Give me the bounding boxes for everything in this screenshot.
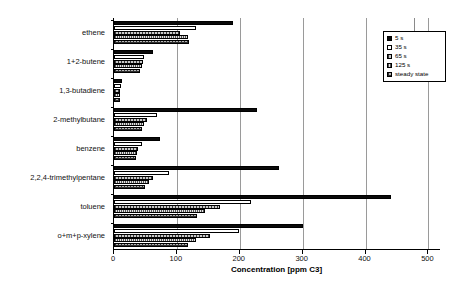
legend-leader-line bbox=[414, 18, 415, 31]
bar-chart: ethene1+2-butene1,3-butadiene2-methylbut… bbox=[0, 0, 474, 290]
bar bbox=[114, 137, 160, 141]
y-axis-tick bbox=[111, 49, 114, 50]
y-axis-label: toluene bbox=[80, 203, 105, 211]
bar bbox=[114, 26, 196, 30]
bar bbox=[114, 40, 189, 44]
y-axis-label: ethene bbox=[82, 29, 105, 37]
bar bbox=[114, 79, 122, 83]
bar bbox=[114, 98, 120, 102]
bar bbox=[114, 200, 251, 204]
bar bbox=[114, 234, 210, 238]
bar bbox=[114, 229, 239, 233]
legend-swatch bbox=[387, 63, 392, 68]
bar bbox=[114, 55, 144, 59]
bar-group bbox=[114, 163, 440, 192]
legend-item: 65 s bbox=[387, 52, 443, 60]
legend-swatch bbox=[387, 45, 392, 50]
bar bbox=[114, 84, 121, 88]
y-axis-tick bbox=[111, 223, 114, 224]
bar bbox=[114, 209, 205, 213]
bar bbox=[114, 171, 169, 175]
bar bbox=[114, 142, 142, 146]
x-axis-title: Concentration [ppm C3] bbox=[113, 266, 440, 274]
legend-swatch bbox=[387, 54, 392, 59]
legend: 5 s35 s65 s125 ssteady state bbox=[383, 31, 446, 82]
bar bbox=[114, 205, 220, 209]
legend-swatch bbox=[387, 72, 392, 77]
y-axis-tick bbox=[111, 194, 114, 195]
bar-group bbox=[114, 192, 440, 221]
bar bbox=[114, 166, 279, 170]
bar bbox=[114, 238, 196, 242]
x-axis-tick-label: 200 bbox=[219, 255, 259, 263]
y-axis-tick bbox=[111, 136, 114, 137]
bar bbox=[114, 35, 188, 39]
bar bbox=[114, 224, 303, 228]
bar bbox=[114, 151, 137, 155]
bar bbox=[114, 64, 142, 68]
bar bbox=[114, 243, 188, 247]
bar bbox=[114, 156, 136, 160]
bar bbox=[114, 127, 142, 131]
bar bbox=[114, 147, 138, 151]
bar bbox=[114, 93, 120, 97]
y-axis-tick bbox=[111, 78, 114, 79]
x-axis-tick-label: 500 bbox=[407, 255, 447, 263]
bar bbox=[114, 118, 147, 122]
legend-swatch bbox=[387, 36, 392, 41]
y-axis-tick bbox=[111, 20, 114, 21]
y-axis-label: 2,2,4-trimethylpentane bbox=[30, 174, 105, 182]
x-axis-tick-label: 100 bbox=[156, 255, 196, 263]
y-axis-label: 1,3-butadiene bbox=[59, 87, 105, 95]
bar bbox=[114, 113, 157, 117]
bar bbox=[114, 176, 153, 180]
y-axis-label: 2-methylbutane bbox=[53, 116, 105, 124]
legend-label: 5 s bbox=[395, 35, 403, 41]
legend-item: 35 s bbox=[387, 43, 443, 51]
x-axis-tick-label: 300 bbox=[282, 255, 322, 263]
bar bbox=[114, 122, 144, 126]
bar bbox=[114, 214, 197, 218]
bar bbox=[114, 50, 153, 54]
bar bbox=[114, 180, 149, 184]
legend-item: steady state bbox=[387, 70, 443, 78]
y-axis-label: o+m+p-xylene bbox=[57, 232, 105, 240]
bar bbox=[114, 69, 140, 73]
x-axis-tick-label: 0 bbox=[93, 255, 133, 263]
bar bbox=[114, 195, 391, 199]
y-axis-tick bbox=[111, 165, 114, 166]
bar-group bbox=[114, 105, 440, 134]
bar bbox=[114, 31, 180, 35]
y-axis-tick bbox=[111, 107, 114, 108]
legend-label: 125 s bbox=[395, 62, 410, 68]
legend-item: 5 s bbox=[387, 34, 443, 42]
x-axis-tick-label: 400 bbox=[345, 255, 385, 263]
legend-label: steady state bbox=[395, 71, 428, 77]
bar bbox=[114, 21, 233, 25]
bar bbox=[114, 185, 145, 189]
bar-group bbox=[114, 221, 440, 250]
legend-item: 125 s bbox=[387, 61, 443, 69]
bar bbox=[114, 60, 143, 64]
y-axis-label: 1+2-butene bbox=[67, 58, 105, 66]
legend-label: 35 s bbox=[395, 44, 407, 50]
legend-label: 65 s bbox=[395, 53, 407, 59]
y-axis-labels: ethene1+2-butene1,3-butadiene2-methylbut… bbox=[0, 18, 110, 250]
bar bbox=[114, 89, 120, 93]
bar-group bbox=[114, 134, 440, 163]
bar bbox=[114, 108, 257, 112]
y-axis-label: benzene bbox=[76, 145, 105, 153]
